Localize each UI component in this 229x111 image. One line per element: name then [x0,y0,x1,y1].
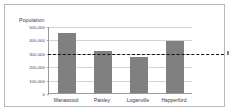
bar [166,41,184,93]
minimum-level-line [48,54,224,55]
y-axis-tick-label: 300,000 [7,51,45,56]
bar [58,33,76,93]
y-axis-tick-label: 100,000 [7,78,45,83]
x-axis-label: Paisley [94,97,110,103]
x-axis-label: Manawood [54,97,78,103]
y-axis-tickmark [47,94,49,95]
y-axis-title: Population [19,17,45,23]
bar [130,57,148,93]
y-axis-tick-label: 400,000 [7,38,45,43]
x-axis-label: Happerford [161,97,186,103]
bar [94,51,112,93]
chart-frame: Population 0100,000200,000300,000400,000… [4,4,225,107]
minimum-level-label: Minimum level [227,51,229,56]
bar-series [49,27,192,93]
chart-figure: Population 0100,000200,000300,000400,000… [0,0,229,111]
y-axis-tick-label: 500,000 [7,25,45,30]
plot-area: 0100,000200,000300,000400,000500,000 [48,27,192,94]
y-axis-tick-label: 0 [7,92,45,97]
x-axis-label: Loganville [127,97,150,103]
y-axis-tick-label: 200,000 [7,65,45,70]
